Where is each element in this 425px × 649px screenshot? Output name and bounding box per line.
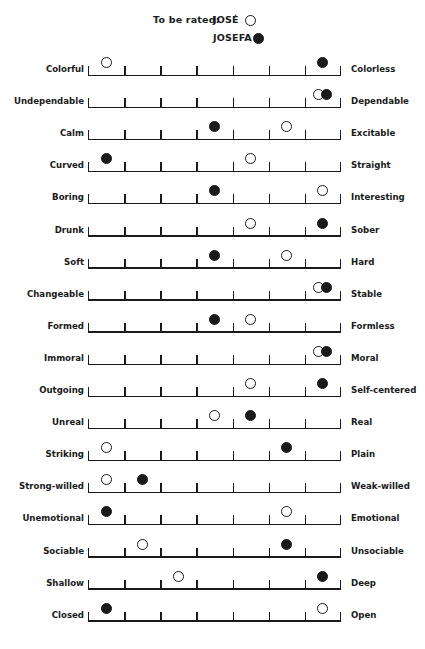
scale-tick <box>340 580 341 590</box>
scale-tick <box>196 66 197 76</box>
scale-tick <box>124 483 125 493</box>
left-adjective: Formed <box>47 321 84 331</box>
scale-tick <box>269 419 270 429</box>
scale-tick <box>88 355 89 365</box>
jose-rating-marker <box>245 218 256 229</box>
scale-baseline <box>88 107 341 108</box>
scale-tick <box>233 227 234 237</box>
scale-baseline <box>88 203 341 204</box>
scale-tick <box>233 291 234 301</box>
scale-tick <box>340 194 341 204</box>
josefa-rating-marker <box>317 571 328 582</box>
scale-tick <box>305 419 306 429</box>
scale-tick <box>88 419 89 429</box>
scale-tick <box>196 130 197 140</box>
scale-tick <box>88 259 89 269</box>
left-adjective: Soft <box>64 257 84 267</box>
scale-tick <box>269 130 270 140</box>
jose-rating-marker <box>281 506 292 517</box>
scale-tick <box>160 130 161 140</box>
filled-circle-icon <box>253 33 264 44</box>
scale-tick <box>124 66 125 76</box>
scale-tick <box>124 259 125 269</box>
jose-rating-marker <box>317 603 328 614</box>
scale-tick <box>160 548 161 558</box>
rating-scale <box>88 88 341 108</box>
legend-label-jose: JOSÉ <box>213 14 239 25</box>
scale-tick <box>88 612 89 622</box>
scale-tick <box>305 548 306 558</box>
scale-baseline <box>88 396 341 397</box>
scale-tick <box>269 355 270 365</box>
scale-tick <box>196 227 197 237</box>
scale-tick <box>124 98 125 108</box>
scale-baseline <box>88 235 341 236</box>
scale-tick <box>160 483 161 493</box>
rating-scale <box>88 409 341 429</box>
scale-tick <box>269 98 270 108</box>
jose-rating-marker <box>281 250 292 261</box>
scale-tick <box>124 419 125 429</box>
scale-row: ShallowDeep <box>0 570 425 590</box>
scale-tick <box>305 580 306 590</box>
left-adjective: Undependable <box>14 96 84 106</box>
scale-tick <box>269 66 270 76</box>
josefa-rating-marker <box>101 153 112 164</box>
scale-tick <box>305 162 306 172</box>
jose-rating-marker <box>173 571 184 582</box>
josefa-rating-marker <box>245 410 256 421</box>
scale-tick <box>88 548 89 558</box>
scale-tick <box>124 291 125 301</box>
scale-tick <box>88 323 89 333</box>
scale-tick <box>340 355 341 365</box>
josefa-rating-marker <box>281 442 292 453</box>
scale-tick <box>124 323 125 333</box>
rating-scale <box>88 56 341 76</box>
scale-tick <box>233 194 234 204</box>
scale-tick <box>233 419 234 429</box>
jose-rating-marker <box>101 474 112 485</box>
scale-row: BoringInteresting <box>0 184 425 204</box>
josefa-rating-marker <box>317 57 328 68</box>
scale-tick <box>305 515 306 525</box>
josefa-rating-marker <box>317 378 328 389</box>
josefa-rating-marker <box>209 185 220 196</box>
scale-row: ClosedOpen <box>0 602 425 622</box>
scale-tick <box>340 387 341 397</box>
scale-row: StrikingPlain <box>0 441 425 461</box>
scale-tick <box>124 612 125 622</box>
left-adjective: Boring <box>52 192 84 202</box>
left-adjective: Unreal <box>52 417 84 427</box>
scale-row: DrunkSober <box>0 217 425 237</box>
scale-tick <box>233 612 234 622</box>
scale-tick <box>269 259 270 269</box>
right-adjective: Plain <box>351 449 375 459</box>
scale-tick <box>340 419 341 429</box>
left-adjective: Strong-willed <box>19 481 84 491</box>
rating-scale <box>88 473 341 493</box>
rating-scale <box>88 313 341 333</box>
scale-tick <box>196 451 197 461</box>
scale-tick <box>160 419 161 429</box>
scale-tick <box>340 612 341 622</box>
scale-tick <box>88 227 89 237</box>
scale-tick <box>196 483 197 493</box>
scale-tick <box>233 387 234 397</box>
scale-row: SoftHard <box>0 249 425 269</box>
scale-tick <box>124 194 125 204</box>
jose-rating-marker <box>245 314 256 325</box>
scale-tick <box>340 291 341 301</box>
scale-tick <box>88 291 89 301</box>
scale-tick <box>340 515 341 525</box>
scale-tick <box>340 130 341 140</box>
scale-tick <box>233 259 234 269</box>
scale-tick <box>305 387 306 397</box>
scale-tick <box>124 580 125 590</box>
scale-tick <box>305 355 306 365</box>
scale-tick <box>160 291 161 301</box>
scale-tick <box>305 194 306 204</box>
scale-tick <box>305 451 306 461</box>
scale-tick <box>160 355 161 365</box>
scale-tick <box>196 291 197 301</box>
jose-rating-marker <box>101 57 112 68</box>
